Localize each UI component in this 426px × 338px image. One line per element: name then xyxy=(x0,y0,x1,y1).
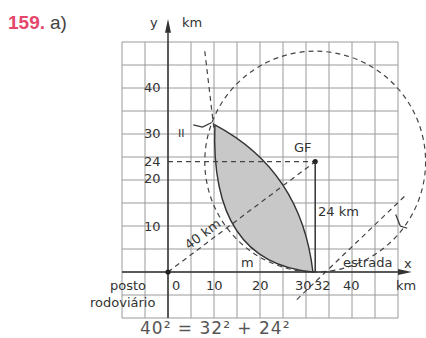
distance-24km-label: 24 km xyxy=(318,204,359,219)
x-tick-40: 40 xyxy=(343,278,360,293)
y-tick-10: 10 xyxy=(144,219,161,234)
x-tick-20: 20 xyxy=(252,278,269,293)
road-label: estrada xyxy=(343,255,392,270)
x-axis-unit: km xyxy=(396,278,416,293)
point-gf-label: GF xyxy=(294,140,312,155)
x-tick-10: 10 xyxy=(206,278,223,293)
y-tick-20: 20 xyxy=(144,171,161,186)
y-tick-40: 40 xyxy=(144,80,161,95)
distance-40km-label: 40 km xyxy=(182,216,224,253)
ii-arrow-icon xyxy=(193,123,211,128)
x-axis-label: x xyxy=(404,256,412,271)
bottom-formula-clipped: 40² = 32² + 24² xyxy=(140,318,290,338)
y-axis-label: y xyxy=(150,15,158,30)
x-tick-30: 30 xyxy=(295,278,312,293)
y-tick-24: 24 xyxy=(144,154,161,169)
x-tick-32: 32 xyxy=(314,278,331,293)
origin-label-posto: posto xyxy=(110,278,146,293)
y-axis-arrow-icon xyxy=(165,19,171,33)
dashed-line-to-ii xyxy=(205,51,214,129)
x-tick-0: 0 xyxy=(172,278,180,293)
origin-label-rodoviario: rodoviário xyxy=(90,295,155,310)
region-ii-label: II xyxy=(178,127,185,140)
origin-point xyxy=(165,269,170,274)
y-axis-unit: km xyxy=(182,15,202,30)
arc-m-label: m xyxy=(241,255,254,270)
y-tick-30: 30 xyxy=(144,126,161,141)
